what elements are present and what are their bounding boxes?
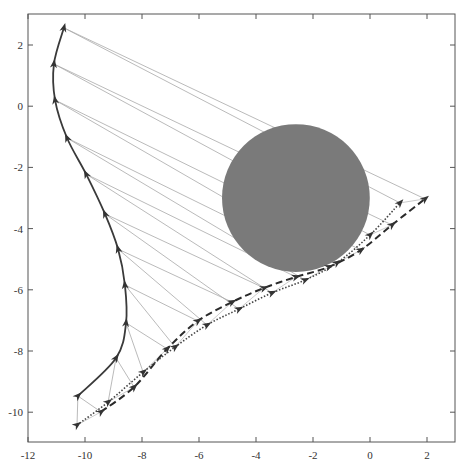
- y-tick-label: 0: [18, 100, 24, 112]
- arrowhead-marker-icon: [100, 208, 110, 219]
- x-tick-label: -8: [137, 449, 147, 461]
- y-tick-label: -2: [14, 161, 23, 173]
- connector-line: [108, 358, 116, 402]
- y-tick-label: -10: [8, 406, 23, 418]
- arrowhead-marker-icon: [267, 288, 278, 298]
- x-tick-label: -6: [194, 449, 204, 461]
- y-tick-label: -8: [14, 345, 24, 357]
- arrowhead-marker-icon: [356, 244, 367, 255]
- connector-line: [125, 285, 198, 321]
- x-axis-ticks: -12-10-8-6-4-202: [21, 14, 430, 461]
- connector-line: [126, 323, 167, 349]
- obstacle-circle: [222, 124, 370, 272]
- connector-line: [370, 225, 392, 235]
- arrowhead-marker-icon: [113, 243, 122, 254]
- connector-line: [78, 396, 101, 412]
- y-tick-label: 2: [18, 39, 24, 51]
- x-tick-label: -12: [21, 449, 36, 461]
- connector-line: [118, 249, 207, 325]
- circular-obstacle: [222, 124, 370, 272]
- arrowhead-marker-icon: [62, 132, 72, 143]
- x-tick-label: -10: [78, 449, 93, 461]
- connector-line: [118, 249, 232, 302]
- y-tick-label: -6: [14, 284, 24, 296]
- x-tick-label: 0: [367, 449, 373, 461]
- arrowhead-marker-icon: [81, 168, 91, 179]
- x-tick-label: 2: [424, 449, 430, 461]
- connector-line: [126, 323, 143, 372]
- connector-line: [116, 358, 134, 387]
- arrowhead-marker-icon: [59, 22, 68, 33]
- x-tick-label: -4: [251, 449, 261, 461]
- connector-line: [239, 288, 264, 309]
- trajectory-plot: -12-10-8-6-4-202 20-2-4-6-8-10: [0, 0, 466, 468]
- y-tick-label: -4: [14, 223, 24, 235]
- x-tick-label: -2: [308, 449, 317, 461]
